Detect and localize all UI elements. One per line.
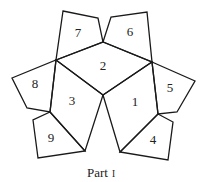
caption-text: Part: [87, 165, 108, 180]
face-label-6: 6: [127, 24, 134, 39]
caption-numeral: I: [112, 169, 115, 179]
face-label-3: 3: [69, 93, 76, 108]
face-label-4: 4: [150, 132, 157, 147]
face-label-8: 8: [32, 76, 39, 91]
face-label-2: 2: [100, 58, 107, 73]
net-diagram: 123456789 PartI: [0, 0, 206, 182]
face-label-1: 1: [132, 94, 139, 109]
face-label-9: 9: [48, 130, 55, 145]
face-9: [33, 112, 85, 158]
figure-caption: PartI: [87, 165, 115, 180]
face-label-7: 7: [75, 25, 82, 40]
face-5: [152, 62, 195, 114]
face-label-5: 5: [167, 80, 174, 95]
face-3: [50, 60, 103, 151]
face-4: [120, 114, 173, 160]
